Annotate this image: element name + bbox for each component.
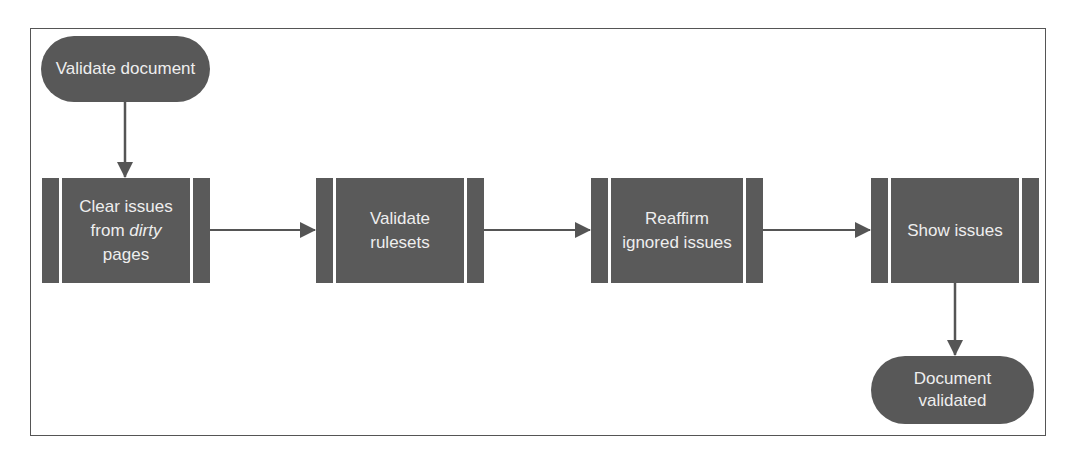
process-body: Clear issues from dirty pages	[62, 178, 190, 283]
process-node-validate-rulesets: Validate rulesets	[316, 178, 484, 283]
end-node-label-line2: validated	[914, 390, 991, 412]
process-label-line1: Clear issues	[79, 195, 173, 219]
process-body: Show issues	[891, 178, 1019, 283]
end-node-label-line1: Document	[914, 368, 991, 390]
process-body: Validate rulesets	[336, 178, 464, 283]
process-node-show-issues: Show issues	[871, 178, 1039, 283]
process-bar-right	[193, 178, 210, 283]
process-label-line2: rulesets	[370, 231, 430, 255]
process-bar-left	[591, 178, 608, 283]
process-bar-left	[42, 178, 59, 283]
process-label-line1: Reaffirm	[622, 207, 732, 231]
end-node: Document validated	[871, 356, 1034, 424]
process-node-reaffirm-ignored: Reaffirm ignored issues	[591, 178, 763, 283]
start-node: Validate document	[41, 36, 210, 102]
process-bar-right	[467, 178, 484, 283]
process-bar-left	[316, 178, 333, 283]
process-label-line1: Validate	[370, 207, 430, 231]
process-bar-left	[871, 178, 888, 283]
start-node-label: Validate document	[56, 58, 196, 80]
process-label-line2: ignored issues	[622, 231, 732, 255]
process-label-line3: pages	[79, 243, 173, 267]
process-node-clear-issues: Clear issues from dirty pages	[42, 178, 210, 283]
process-bar-right	[1022, 178, 1039, 283]
process-label-line1: Show issues	[907, 219, 1002, 243]
process-bar-right	[746, 178, 763, 283]
process-label-line2: from dirty	[79, 219, 173, 243]
process-body: Reaffirm ignored issues	[611, 178, 743, 283]
